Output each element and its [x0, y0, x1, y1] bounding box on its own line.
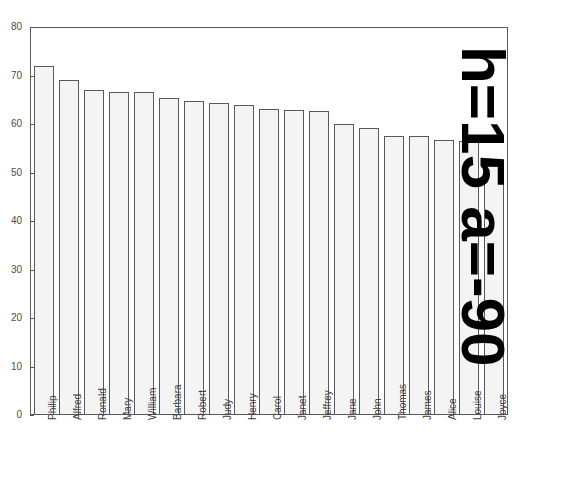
y-tick-label: 60	[11, 117, 22, 130]
y-tick-label: 20	[11, 311, 22, 324]
bar	[159, 98, 179, 415]
x-axis-label: Louise	[473, 391, 483, 420]
x-axis-label: John	[373, 398, 383, 420]
bar	[34, 66, 54, 415]
bar	[259, 109, 279, 415]
y-tick-label: 40	[11, 214, 22, 227]
bar	[359, 128, 379, 415]
bar	[234, 105, 254, 415]
x-axis-label: Barbara	[173, 384, 183, 420]
x-axis-label: Ronald	[98, 388, 108, 420]
bar	[84, 90, 104, 415]
x-axis-label: William	[148, 388, 158, 420]
bar	[184, 101, 204, 415]
y-tick-label: 10	[11, 360, 22, 373]
bar-chart: 01020304050607080 PhilipAlfredRonaldMary…	[0, 0, 575, 477]
x-axis-label: Jeffrey	[323, 390, 333, 420]
bars-layer	[31, 28, 507, 415]
bar	[309, 111, 329, 415]
bar	[334, 124, 354, 415]
x-axis-label: James	[423, 391, 433, 420]
x-axis-label: Thomas	[398, 384, 408, 420]
y-tick-label: 0	[16, 408, 22, 421]
x-axis-label: Carol	[273, 396, 283, 420]
y-axis: 01020304050607080	[0, 0, 30, 477]
bar	[384, 136, 404, 415]
bar	[209, 103, 229, 415]
x-axis-labels: PhilipAlfredRonaldMaryWilliamBarbaraRobe…	[31, 416, 507, 477]
y-tick-label: 80	[11, 20, 22, 33]
bar	[284, 110, 304, 415]
x-axis-label: Henry	[248, 393, 258, 420]
bar	[409, 136, 429, 415]
x-axis-label: Alfred	[73, 394, 83, 420]
x-axis-label: Judy	[223, 399, 233, 420]
x-axis-label: Alice	[448, 398, 458, 420]
bar	[59, 80, 79, 415]
x-axis-label: Janet	[298, 396, 308, 420]
x-axis-label: Robert	[198, 390, 208, 420]
x-axis-label: Philip	[48, 396, 58, 420]
y-tick-label: 30	[11, 263, 22, 276]
x-axis-label: Mary	[123, 398, 133, 420]
y-tick-label: 50	[11, 166, 22, 179]
x-axis-label: Jane	[348, 398, 358, 420]
x-axis-label: Joyce	[498, 394, 508, 420]
rotated-annotation: h=15 a=-90	[454, 46, 512, 367]
bar	[109, 92, 129, 415]
bar	[134, 92, 154, 415]
y-tick-label: 70	[11, 69, 22, 82]
